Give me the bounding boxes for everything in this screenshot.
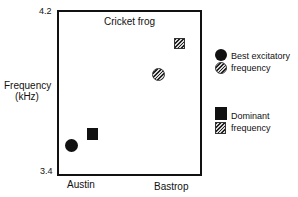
point-bastrop-dominant xyxy=(174,38,185,49)
point-austin-best-excitatory xyxy=(65,139,78,152)
legend-dom-line2: frequency xyxy=(231,123,271,133)
point-bastrop-best-excitatory xyxy=(152,68,165,81)
y-axis-label: Frequency (kHz) xyxy=(4,80,50,102)
chart-title: Cricket frog xyxy=(59,16,200,27)
x-category-austin: Austin xyxy=(67,179,95,190)
legend-bef-line2: frequency xyxy=(231,63,271,73)
x-category-bastrop: Bastrop xyxy=(154,181,188,192)
legend-circle-solid-icon xyxy=(215,49,227,61)
y-axis-label-line2: (kHz) xyxy=(4,91,50,102)
legend-square-hatched-icon xyxy=(215,122,226,134)
legend-dom-line1: Dominant xyxy=(231,111,270,121)
plot-area: Cricket frog xyxy=(57,10,202,176)
point-austin-dominant xyxy=(87,128,98,140)
y-axis-label-line1: Frequency xyxy=(4,80,50,91)
legend-circle-hatched-icon xyxy=(215,62,227,74)
legend-square-solid-icon xyxy=(215,107,227,120)
y-tick-top: 4.2 xyxy=(39,6,52,16)
y-tick-bottom: 3.4 xyxy=(40,166,53,176)
legend-bef-line1: Best excitatory xyxy=(231,51,290,61)
